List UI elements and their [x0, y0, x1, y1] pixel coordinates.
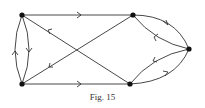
edge-c-d — [130, 49, 189, 84]
node-a — [19, 12, 24, 17]
node-e — [19, 81, 24, 86]
edge-d-c — [130, 49, 189, 84]
node-b — [130, 12, 135, 17]
node-c — [186, 46, 191, 51]
arrow-icon — [163, 71, 168, 76]
edge-a-e — [22, 15, 29, 84]
node-d — [127, 81, 132, 86]
figure-caption: Fig. 15 — [0, 92, 205, 102]
edge-e-a — [15, 15, 22, 84]
edge-b-c — [133, 15, 189, 49]
